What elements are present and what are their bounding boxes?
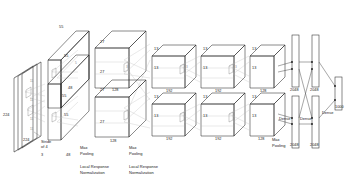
input-channels-label: 3 <box>41 153 43 158</box>
fc6-lower-units-label: 2048 <box>290 143 299 148</box>
conv1-upper-side-label: 55 <box>64 54 68 59</box>
conv4-lower-volume <box>201 93 245 136</box>
conv5-lower-top-label: 13 <box>252 95 256 100</box>
conv1-upper-volume <box>48 31 89 108</box>
input-kernel-label-extra: 11 <box>30 128 33 132</box>
input-kernel-label-top: 11 <box>30 80 33 84</box>
conv4-kernel-box-upper <box>229 64 233 74</box>
local-response-normalization-2-line1: Local Response <box>129 164 158 169</box>
conv2-lower-top-label: 27 <box>100 88 104 93</box>
conv3-lower-top-label: 13 <box>154 95 158 100</box>
conv5-lower-depth-label: 128 <box>258 137 264 142</box>
conv2-upper-side-label: 27 <box>100 70 104 75</box>
fc7-upper-bar <box>312 35 319 87</box>
conv3-kernel-size-label: 3 <box>186 66 188 70</box>
conv2-lower-side-label: 27 <box>100 120 104 125</box>
conv3-lower-volume <box>152 93 196 136</box>
max-pooling-2-line1: Max <box>129 145 137 150</box>
conv3-lower-depth-label: 192 <box>166 137 172 142</box>
conv3-upper-top-label: 13 <box>154 47 158 52</box>
conv1-upper-depth-label: 48 <box>68 86 72 91</box>
conv3-upper-volume <box>152 45 196 88</box>
conv5-upper-top-label: 13 <box>252 47 256 52</box>
conv4-kernel-size-label: 3 <box>235 66 237 70</box>
fc6-to-fc7-connections <box>299 62 312 124</box>
conv3-lower-side-label: 13 <box>154 114 158 119</box>
fc6-lower-bar <box>292 96 299 148</box>
conv1-lower-depth-label: 48 <box>66 153 70 158</box>
architecture-diagram-graphic <box>0 0 362 189</box>
conv4-upper-volume <box>201 45 245 88</box>
fc6-upper-units-label: 2048 <box>290 88 299 93</box>
max-pooling-1-line1: Max <box>80 145 88 150</box>
fc7-lower-units-label: 2048 <box>310 143 319 148</box>
output-units-label: 1000 <box>335 105 344 110</box>
conv2-kernel-size-label: 3 <box>126 66 128 70</box>
input-width-label: 224 <box>23 138 29 143</box>
local-response-normalization-1-line1: Local Response <box>80 164 109 169</box>
diagram-canvas: 224 224 3 Stride of 4 11 11 11 11 55 55 … <box>0 0 362 189</box>
input-height-label: 224 <box>3 113 9 118</box>
conv1-kernel-size-label: 5 <box>75 62 77 66</box>
max-pooling-2-line2: Pooling <box>129 151 142 156</box>
conv4-lower-top-label: 13 <box>203 95 207 100</box>
dense-label-2: Dense <box>300 117 311 122</box>
conv4-lower-side-label: 13 <box>203 114 207 119</box>
input-kernel-label-bottom: 11 <box>30 118 33 122</box>
conv1-lower-top-label: 55 <box>62 94 66 99</box>
conv4-lower-depth-label: 192 <box>215 137 221 142</box>
conv3-kernel-box-upper <box>180 64 184 74</box>
max-pooling-1-line2: Pooling <box>80 151 93 156</box>
conv5-upper-depth-label: 128 <box>260 89 266 94</box>
conv5-upper-side-label: 13 <box>252 66 256 71</box>
conv2-lower-depth-label: 128 <box>110 139 116 144</box>
dense-label-3: Dense <box>322 111 333 116</box>
dense-label-1: Dense <box>279 117 290 122</box>
conv4-kernel-box-lower <box>229 112 233 122</box>
local-response-normalization-2-line2: Normalization <box>129 170 154 175</box>
fc6-upper-bar <box>292 35 299 87</box>
max-pooling-3-line2: Pooling <box>272 143 285 148</box>
conv5-lower-side-label: 13 <box>252 114 256 119</box>
conv1-lower-side-label: 55 <box>64 113 68 118</box>
conv3-kernel-box-lower <box>180 112 184 122</box>
conv1-upper-top-label: 55 <box>59 25 63 30</box>
stride-label-line2: of 4 <box>41 145 48 150</box>
local-response-normalization-1-line2: Normalization <box>80 170 105 175</box>
conv4-upper-side-label: 13 <box>203 66 207 71</box>
conv2-upper-depth-label: 128 <box>112 88 118 93</box>
conv3-upper-depth-label: 192 <box>166 89 172 94</box>
fc7-lower-bar <box>312 96 319 148</box>
max-pooling-3-line1: Max <box>272 137 280 142</box>
conv4-upper-depth-label: 192 <box>215 89 221 94</box>
conv2-kernel-box-lower <box>124 110 128 120</box>
conv2-upper-top-label: 27 <box>100 40 104 45</box>
fc7-upper-units-label: 2048 <box>310 88 319 93</box>
input-kernel-label-mid: 11 <box>30 99 33 103</box>
conv3-upper-side-label: 13 <box>154 66 158 71</box>
conv4-upper-top-label: 13 <box>203 47 207 52</box>
